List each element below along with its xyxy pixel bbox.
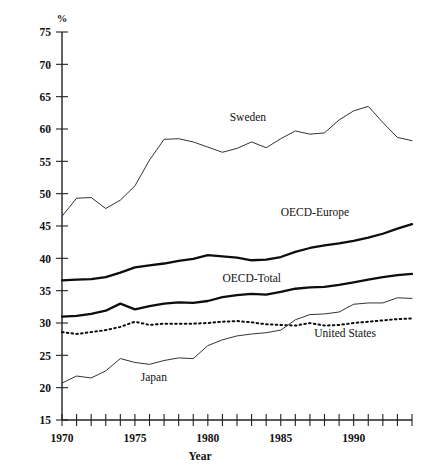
x-axis-tick-label: 1970 [51,432,74,444]
series-line-japan [62,298,412,383]
chart-figure: 1520253035404550556065707519701975198019… [0,0,426,465]
y-axis-tick-label: 60 [40,123,52,135]
y-axis-tick-label: 20 [40,382,52,394]
series-label-oecd-total: OECD-Total [222,272,281,284]
y-axis-tick-label: 65 [40,91,52,103]
y-axis-tick-label: 35 [40,285,52,297]
axis-title-group: %Year [57,13,212,462]
y-axis-tick-label: 55 [40,156,52,168]
y-axis-unit-label: % [57,13,68,24]
y-axis-tick-label: 40 [40,253,52,265]
axes-group: 1520253035404550556065707519701975198019… [40,26,413,444]
line-chart-svg: 1520253035404550556065707519701975198019… [0,0,426,465]
series-label-group: SwedenOECD-EuropeOECD-TotalUnited States… [141,111,377,384]
y-axis-tick-label: 45 [40,220,52,232]
y-axis-tick-label: 75 [40,26,52,38]
x-axis-tick-label: 1980 [196,432,219,444]
series-label-united-states: United States [314,327,376,339]
series-label-sweden: Sweden [230,111,267,123]
y-axis-tick-label: 15 [40,414,52,426]
series-label-oecd-europe: OECD-Europe [281,206,349,219]
series-group [62,106,412,383]
y-axis-tick-label: 70 [40,59,52,71]
series-label-japan: Japan [141,371,167,384]
y-axis-tick-label: 50 [40,188,52,200]
y-axis-tick-label: 25 [40,350,52,362]
y-axis-tick-label: 30 [40,317,52,329]
x-axis-tick-label: 1990 [342,432,365,444]
x-axis-tick-label: 1985 [269,432,292,444]
x-axis-title: Year [189,450,212,462]
x-axis-tick-label: 1975 [123,432,146,444]
